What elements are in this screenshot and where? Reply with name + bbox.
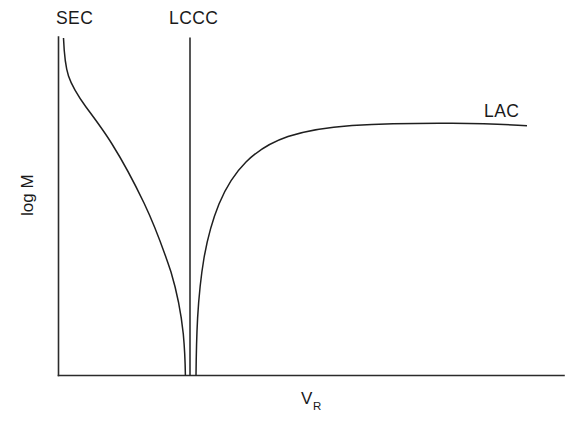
figure-root: SEC LCCC LAC log M V R [0,0,579,421]
curve-labels-group: SEC LCCC LAC [56,8,519,121]
y-axis-label: log M [18,174,37,216]
sec-curve [64,38,186,376]
sec-label: SEC [56,8,93,28]
chromatography-schematic-plot: SEC LCCC LAC log M V R [0,0,579,421]
lac-curve [196,123,527,375]
lac-label: LAC [484,101,519,121]
lccc-label: LCCC [169,8,218,28]
axes-group [59,37,565,376]
x-axis-label-base: V [301,389,313,408]
y-axis-label-group: log M [18,174,37,216]
sec-curve-group [64,38,186,376]
x-axis-label-subscript: R [313,400,321,412]
lac-curve-group [196,123,527,375]
x-axis-label-group: V R [301,389,321,412]
